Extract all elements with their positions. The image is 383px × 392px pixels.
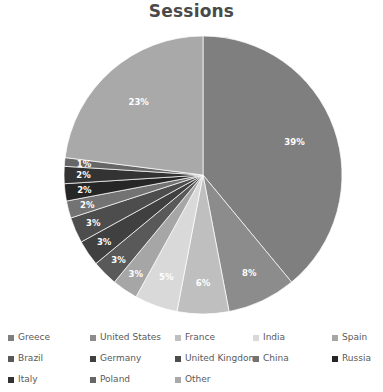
chart-title: Sessions bbox=[0, 1, 383, 21]
legend-item-label: Italy bbox=[18, 373, 38, 386]
legend-item[interactable]: China bbox=[253, 352, 289, 365]
legend-item-label: Other bbox=[185, 373, 211, 386]
slice-percent-label: 39% bbox=[284, 137, 305, 147]
legend-item[interactable]: Italy bbox=[8, 373, 38, 386]
slice-percent-label: 23% bbox=[129, 97, 150, 107]
legend-item-label: China bbox=[263, 352, 289, 365]
legend-swatch-icon bbox=[253, 335, 259, 341]
legend-item[interactable]: United States bbox=[90, 331, 161, 344]
legend-item[interactable]: United Kingdom bbox=[175, 352, 257, 365]
legend-swatch-icon bbox=[90, 356, 96, 362]
slice-percent-label: 2% bbox=[80, 200, 95, 210]
slice-percent-label: 3% bbox=[97, 237, 112, 247]
slice-percent-label: 3% bbox=[111, 255, 126, 265]
legend-swatch-icon bbox=[332, 335, 338, 341]
pie-svg: 39%8%6%5%3%3%3%3%2%2%2%1%23% bbox=[0, 22, 383, 327]
legend-item-label: Greece bbox=[18, 331, 50, 344]
legend-item[interactable]: India bbox=[253, 331, 285, 344]
legend-item-label: Brazil bbox=[18, 352, 43, 365]
slice-percent-label: 1% bbox=[77, 159, 92, 169]
legend-swatch-icon bbox=[253, 356, 259, 362]
legend-item-label: India bbox=[263, 331, 285, 344]
legend-item[interactable]: Other bbox=[175, 373, 211, 386]
legend-item[interactable]: Poland bbox=[90, 373, 130, 386]
chart-legend: GreeceUnited StatesFranceIndiaSpainBrazi… bbox=[0, 331, 383, 392]
legend-item-label: United Kingdom bbox=[185, 352, 257, 365]
legend-item-label: France bbox=[185, 331, 215, 344]
legend-swatch-icon bbox=[8, 377, 14, 383]
legend-swatch-icon bbox=[90, 335, 96, 341]
legend-item[interactable]: Germany bbox=[90, 352, 141, 365]
legend-item[interactable]: Spain bbox=[332, 331, 367, 344]
pie-chart-figure: Sessions 39%8%6%5%3%3%3%3%2%2%2%1%23% Gr… bbox=[0, 0, 383, 392]
legend-item-label: Poland bbox=[100, 373, 130, 386]
pie-plot-area: 39%8%6%5%3%3%3%3%2%2%2%1%23% bbox=[0, 22, 383, 327]
legend-item[interactable]: Russia bbox=[332, 352, 371, 365]
slice-percent-label: 3% bbox=[86, 218, 101, 228]
legend-item[interactable]: Greece bbox=[8, 331, 50, 344]
legend-swatch-icon bbox=[332, 356, 338, 362]
legend-swatch-icon bbox=[175, 377, 181, 383]
legend-swatch-icon bbox=[8, 335, 14, 341]
legend-item[interactable]: France bbox=[175, 331, 215, 344]
slice-percent-label: 5% bbox=[159, 272, 174, 282]
slice-percent-label: 2% bbox=[77, 185, 92, 195]
legend-swatch-icon bbox=[175, 356, 181, 362]
legend-item-label: Russia bbox=[342, 352, 371, 365]
legend-item-label: Spain bbox=[342, 331, 367, 344]
slice-percent-label: 6% bbox=[196, 278, 211, 288]
slice-percent-label: 8% bbox=[242, 268, 257, 278]
legend-item-label: United States bbox=[100, 331, 161, 344]
legend-swatch-icon bbox=[90, 377, 96, 383]
legend-item[interactable]: Brazil bbox=[8, 352, 43, 365]
legend-item-label: Germany bbox=[100, 352, 141, 365]
slice-percent-label: 3% bbox=[129, 269, 144, 279]
slice-percent-label: 2% bbox=[76, 170, 91, 180]
legend-swatch-icon bbox=[175, 335, 181, 341]
legend-swatch-icon bbox=[8, 356, 14, 362]
